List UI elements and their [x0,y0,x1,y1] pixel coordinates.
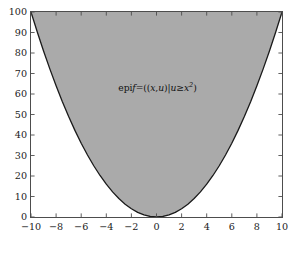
plot-svg [31,12,282,217]
y-tick-label: 20 [1,171,27,181]
y-tick-label: 90 [1,28,27,38]
figure-parabola-epigraph: 0102030405060708090100 epif=((x,u)|u≥x2)… [0,0,299,254]
x-tick-label: 10 [267,221,297,232]
x-axis-tick-labels: −10−8−6−4−20246810 [30,221,283,235]
y-tick-label: 10 [1,192,27,202]
epigraph-fill-region [31,12,282,217]
y-tick-label: 50 [1,110,27,120]
epigraph-fill-group [31,12,282,217]
y-tick-label: 60 [1,89,27,99]
y-tick-label: 80 [1,48,27,58]
plot-area: epif=((x,u)|u≥x2) [30,11,283,218]
y-tick-label: 100 [1,7,27,17]
y-axis-tick-labels: 0102030405060708090100 [0,11,27,218]
y-tick-label: 30 [1,151,27,161]
y-tick-label: 70 [1,69,27,79]
y-tick-label: 40 [1,130,27,140]
